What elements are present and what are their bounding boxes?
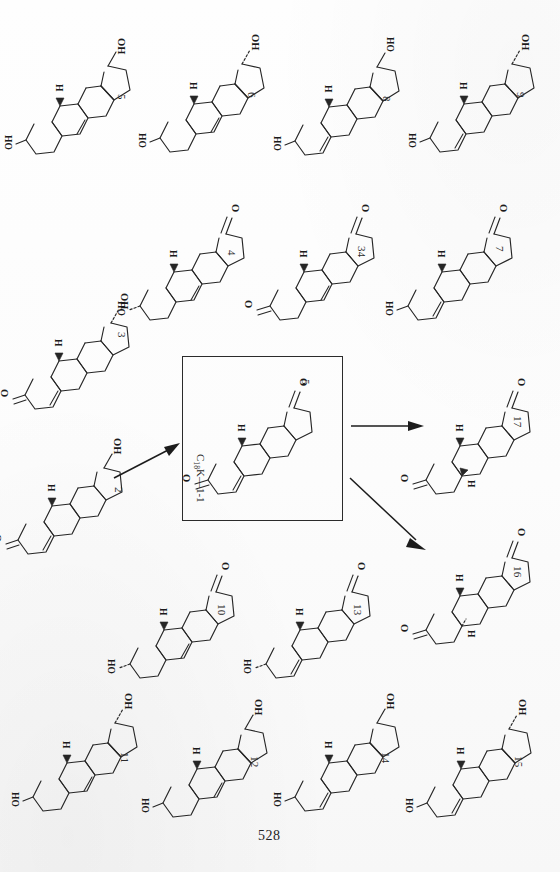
formula-suffix: K—1-1 — [195, 469, 207, 503]
label-o-17: O — [356, 562, 367, 570]
label-o-3: O — [181, 474, 192, 482]
label-ho-3: HO — [137, 133, 147, 148]
label-o-17: O — [516, 528, 527, 536]
label-h: H — [61, 741, 71, 749]
label-h: H — [236, 424, 246, 432]
structure-number-3: 3 — [116, 332, 128, 338]
label-oh-17: OH — [520, 34, 531, 50]
structure-14: OH HO H — [288, 690, 414, 822]
label-o-3: O — [399, 474, 410, 482]
structure-number-11: 11 — [119, 752, 131, 763]
label-ho-3: HO — [242, 659, 252, 674]
label-o-3: O — [0, 389, 10, 397]
label-h: H — [458, 82, 468, 90]
box-compound-number: 5 — [300, 379, 312, 385]
structure-number-14: 14 — [380, 752, 392, 764]
label-ho-3: HO — [272, 136, 282, 151]
label-h: H — [54, 84, 64, 92]
label-h: H — [46, 484, 56, 492]
structure-15: OH HO H — [420, 696, 546, 828]
structure-12: OH HO H — [156, 696, 282, 828]
structure-number-6: 6 — [246, 92, 258, 98]
label-h: H — [298, 250, 308, 258]
label-h: H — [294, 608, 304, 616]
label-ho-3: HO — [407, 133, 417, 148]
structure-4: O HO H — [132, 198, 258, 328]
structure-boxed: O O H — [201, 371, 325, 501]
label-ho-3: HO — [272, 792, 282, 807]
structure-number-8: 8 — [381, 96, 393, 102]
label-h: H — [455, 747, 465, 755]
box-formula-label: C18K—1-1 — [192, 454, 207, 503]
structure-5: OH HO H — [18, 34, 146, 166]
structure-16: O O H H — [420, 520, 542, 650]
label-oh-17: OH — [119, 293, 130, 309]
label-h: H — [323, 741, 333, 749]
label-o-3: O — [0, 534, 3, 542]
structure-number-5: 5 — [116, 94, 128, 100]
label-o-17: O — [516, 378, 527, 386]
label-h-10: H — [454, 574, 464, 582]
structure-number-16: 16 — [512, 566, 524, 578]
structure-number-34: 34 — [356, 246, 368, 258]
page-number: 528 — [258, 828, 281, 844]
label-o-17: O — [498, 204, 509, 212]
structure-number-13: 13 — [352, 604, 364, 616]
label-h: H — [158, 608, 168, 616]
label-ho-3: HO — [3, 135, 13, 150]
label-ho-3: HO — [384, 301, 394, 316]
label-ho-3: HO — [10, 792, 20, 807]
structure-17: O O H H — [420, 370, 542, 500]
label-oh-17: OH — [385, 693, 396, 709]
arrow-into-box — [112, 440, 182, 484]
label-h: H — [191, 747, 201, 755]
label-h: H — [168, 250, 178, 258]
label-h: H — [436, 250, 446, 258]
label-h-5: H — [466, 480, 476, 488]
label-ho-3: HO — [140, 798, 150, 813]
label-oh-17: OH — [250, 34, 261, 50]
label-h-10: H — [454, 424, 464, 432]
structure-7: O HO H — [400, 198, 526, 328]
label-ho-3: HO — [106, 659, 116, 674]
formula-subscript: 18 — [192, 461, 201, 469]
structure-3: OH O H — [22, 288, 144, 416]
label-o-3: O — [243, 300, 254, 308]
structure-34: O O H — [262, 198, 388, 328]
label-o-17: O — [360, 204, 371, 212]
label-o-3: O — [399, 624, 410, 632]
label-h: H — [53, 339, 63, 347]
structure-10: O HO H — [122, 556, 248, 686]
label-h: H — [188, 82, 198, 90]
arrow-to-17 — [350, 418, 426, 436]
label-h-5: H — [466, 630, 476, 638]
scheme-box: O O H C18K—1-1 5 — [182, 356, 343, 521]
structure-11: OH HO H — [26, 690, 152, 822]
label-ho-17: HO — [385, 37, 395, 52]
structure-number-15: 15 — [513, 756, 525, 768]
structure-6: OH HO H — [150, 30, 278, 166]
structure-number-12: 12 — [249, 756, 261, 768]
structure-number-2: 2 — [113, 487, 125, 493]
label-h: H — [323, 85, 333, 93]
label-oh-17: OH — [253, 699, 264, 715]
structure-8: HO HO H — [288, 34, 414, 166]
structure-number-7: 7 — [494, 246, 506, 252]
structure-9: OH HO H — [420, 30, 548, 166]
structure-number-9: 9 — [515, 92, 527, 98]
label-ho-3: HO — [404, 798, 414, 813]
document-page: OH HO H 5 OH — [0, 0, 560, 872]
structure-13: O HO H — [258, 556, 384, 686]
label-oh-17: OH — [116, 38, 127, 54]
structure-number-17: 17 — [512, 416, 524, 428]
structure-number-4: 4 — [226, 250, 238, 256]
label-o-17: O — [220, 562, 231, 570]
label-o-17: O — [230, 204, 241, 212]
structure-number-10: 10 — [216, 604, 228, 616]
label-oh-17: OH — [123, 693, 134, 709]
label-oh-17: OH — [517, 699, 528, 715]
